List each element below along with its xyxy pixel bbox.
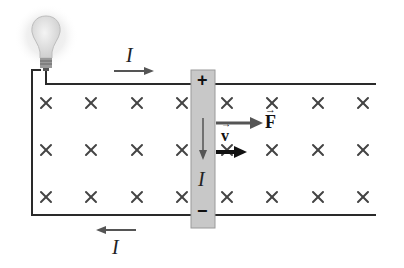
bottom-current-arrow — [96, 226, 136, 234]
velocity-arrow — [216, 146, 247, 158]
rod-positive-terminal: + — [197, 70, 208, 91]
top-current-label: I — [126, 44, 133, 67]
top-current-arrow — [114, 67, 154, 75]
bottom-current-label: I — [112, 236, 119, 259]
velocity-label: → v — [221, 127, 229, 145]
vector-arrow-icon: → — [221, 118, 231, 129]
force-label: → F — [265, 112, 276, 133]
rod-negative-terminal: − — [197, 201, 208, 222]
rod-current-label: I — [198, 168, 205, 191]
vector-arrow-icon: → — [265, 103, 276, 115]
diagram-canvas — [0, 0, 404, 268]
light-bulb-icon — [14, 4, 78, 71]
